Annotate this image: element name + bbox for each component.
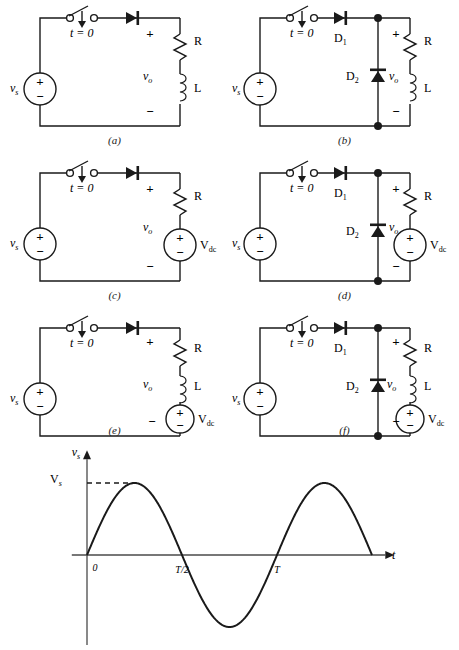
diode-d2 xyxy=(370,69,386,83)
diode2-label: D2 xyxy=(346,379,359,395)
dc-source-vdc: + − xyxy=(164,229,196,261)
vo-label: vo xyxy=(143,220,152,236)
dc-minus: − xyxy=(176,245,183,260)
source-minus: − xyxy=(256,89,263,104)
resistor-label: R xyxy=(194,34,202,48)
source-label: vs xyxy=(10,236,18,252)
switch-label: t = 0 xyxy=(70,26,93,40)
diode-d1 xyxy=(126,321,139,335)
circuit-panel-c: t = 0 + − vs R + − xyxy=(0,155,229,310)
vo-label: vo xyxy=(143,69,152,85)
inductor-L xyxy=(410,376,416,403)
switch-t0[interactable] xyxy=(67,316,98,338)
inductor-L xyxy=(410,74,416,101)
wire-network xyxy=(40,173,180,281)
source-label: vs xyxy=(232,391,240,407)
panel-caption-c: (c) xyxy=(0,289,229,301)
x-tick-T: T xyxy=(274,564,281,575)
switch-t0[interactable] xyxy=(287,161,318,183)
diode-d1 xyxy=(334,321,347,335)
vo-plus: + xyxy=(392,181,399,196)
inductor-label: L xyxy=(194,379,201,393)
switch-label: t = 0 xyxy=(290,181,313,195)
wire-network xyxy=(40,328,180,436)
source-label: vs xyxy=(10,81,18,97)
inductor-label: L xyxy=(194,81,201,95)
source-minus: − xyxy=(256,399,263,414)
source-plus: + xyxy=(36,229,43,244)
x-axis-label: t xyxy=(392,548,396,562)
dc-source-label: Vdc xyxy=(430,238,447,254)
chart-axes xyxy=(72,450,395,645)
source-minus: − xyxy=(36,244,43,259)
inductor-L xyxy=(180,376,186,403)
inductor-label: L xyxy=(424,81,431,95)
source-plus: + xyxy=(256,229,263,244)
x-tick-0: 0 xyxy=(93,562,98,573)
dc-source-label: Vdc xyxy=(200,238,217,254)
resistor-label: R xyxy=(194,341,202,355)
resistor-label: R xyxy=(194,189,202,203)
junction-dot-top xyxy=(374,324,382,332)
vo-label: vo xyxy=(143,377,152,393)
vo-minus: − xyxy=(392,104,399,119)
resistor-R xyxy=(174,189,186,215)
vo-label: vo xyxy=(387,377,396,393)
vo-plus: + xyxy=(392,26,399,41)
resistor-R xyxy=(404,340,416,366)
source-minus: − xyxy=(36,399,43,414)
diode2-label: D2 xyxy=(346,69,359,85)
source-label: vs xyxy=(232,236,240,252)
switch-t0[interactable] xyxy=(67,6,98,28)
voltage-source-vs: + − xyxy=(24,228,56,260)
diode1-label: D1 xyxy=(334,31,347,47)
diode1-label: D1 xyxy=(334,341,347,357)
voltage-source-vs: + − xyxy=(244,228,276,260)
panel-caption-e: (e) xyxy=(0,424,229,436)
resistor-R xyxy=(174,34,186,60)
voltage-source-vs: + − xyxy=(24,383,56,415)
x-tick-half-T: T/2 xyxy=(175,564,188,575)
switch-label: t = 0 xyxy=(290,26,313,40)
vo-plus: + xyxy=(146,26,153,41)
resistor-label: R xyxy=(424,189,432,203)
switch-label: t = 0 xyxy=(290,336,313,350)
wire-network xyxy=(40,18,180,126)
junction-dot-top xyxy=(374,14,382,22)
switch-t0[interactable] xyxy=(287,316,318,338)
voltage-source-vs: + − xyxy=(244,73,276,105)
diode-d1 xyxy=(334,166,347,180)
source-plus: + xyxy=(36,384,43,399)
resistor-R xyxy=(174,340,186,366)
junction-dot-bottom xyxy=(374,122,382,130)
vo-minus: − xyxy=(146,259,153,274)
y-axis-label: vs xyxy=(72,445,80,461)
vo-label: vo xyxy=(389,69,398,85)
panel-caption-f: (f) xyxy=(230,424,459,436)
source-minus: − xyxy=(36,89,43,104)
diode-d2 xyxy=(370,379,386,393)
circuit-panel-d: t = 0 D1 D2 + − v xyxy=(230,155,459,310)
source-waveform-chart: vs Vs t 0 T/2 T xyxy=(0,440,459,650)
circuit-panel-b: t = 0 D1 D2 + − v xyxy=(230,0,459,155)
vo-plus: + xyxy=(392,334,399,349)
source-plus: + xyxy=(256,384,263,399)
diode-d1 xyxy=(126,11,139,25)
switch-label: t = 0 xyxy=(70,181,93,195)
vo-plus: + xyxy=(146,334,153,349)
vo-label: vo xyxy=(389,220,398,236)
dc-source-vdc: + − xyxy=(394,229,426,261)
circuit-panel-a: t = 0 + − vs R xyxy=(0,0,229,155)
resistor-label: R xyxy=(424,341,432,355)
source-minus: − xyxy=(256,244,263,259)
vo-minus: − xyxy=(146,104,153,119)
panel-caption-b: (b) xyxy=(230,134,459,146)
source-label: vs xyxy=(10,391,18,407)
switch-t0[interactable] xyxy=(67,161,98,183)
diode-d1 xyxy=(126,166,139,180)
peak-value-label: Vs xyxy=(50,472,62,488)
diode1-label: D1 xyxy=(334,186,347,202)
switch-t0[interactable] xyxy=(287,6,318,28)
dc-minus: − xyxy=(406,245,413,260)
voltage-source-vs: + − xyxy=(24,73,56,105)
